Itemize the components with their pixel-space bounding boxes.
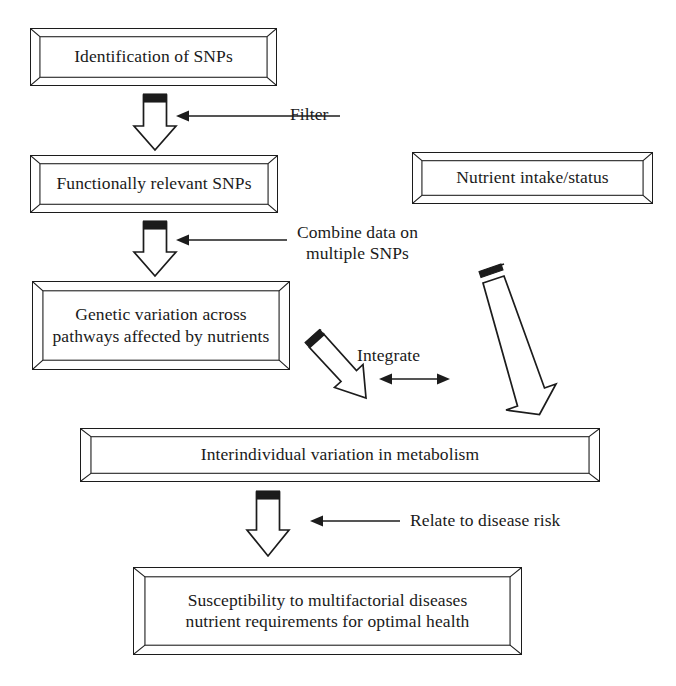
box-label: Nutrient intake/status: [413, 153, 652, 203]
arrow-relate-pointer: [310, 516, 400, 527]
box-label: Susceptibility to multifactorial disease…: [134, 568, 521, 654]
box-label: Interindividual variation in metabolism: [81, 429, 599, 481]
box-label: Functionally relevant SNPs: [31, 156, 277, 212]
box-label: Identification of SNPs: [31, 29, 276, 85]
label-filter: Filter: [290, 104, 329, 125]
box-identification-of-snps: Identification of SNPs: [30, 28, 277, 86]
label-integrate: Integrate: [357, 345, 420, 366]
arrow-functional-to-genetic: [134, 221, 176, 276]
box-genetic-variation: Genetic variation across pathways affect…: [32, 281, 290, 370]
arrow-identification-to-functional: [134, 94, 176, 150]
arrow-integrate-bidirectional: [379, 374, 450, 385]
label-relate-to-disease-risk: Relate to disease risk: [410, 510, 560, 531]
label-combine-data: Combine data on multiple SNPs: [297, 222, 418, 265]
arrow-interindividual-to-susceptibility: [247, 491, 289, 556]
box-functionally-relevant-snps: Functionally relevant SNPs: [30, 155, 278, 213]
box-interindividual-variation: Interindividual variation in metabolism: [80, 428, 600, 482]
arrow-nutrient-to-interindividual: [479, 264, 556, 415]
box-nutrient-intake-status: Nutrient intake/status: [412, 152, 653, 204]
box-susceptibility: Susceptibility to multifactorial disease…: [133, 567, 522, 655]
arrow-combine-pointer: [176, 235, 287, 246]
box-label: Genetic variation across pathways affect…: [33, 282, 289, 369]
flowchart-diagram: Identification of SNPs Functionally rele…: [0, 0, 676, 686]
